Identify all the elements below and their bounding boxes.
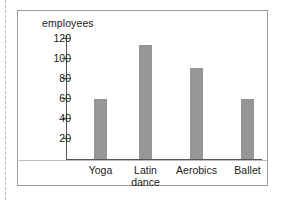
- y-axis-title: employees: [42, 17, 94, 29]
- bar-ballet[interactable]: [241, 99, 254, 160]
- page-margin-rule: [5, 0, 6, 200]
- y-tick-label: 40: [31, 112, 71, 124]
- y-tick-label: 20: [31, 132, 71, 144]
- figure-root: employees 120 100 80 60: [0, 0, 283, 200]
- y-tick-label: 60: [31, 92, 71, 104]
- x-category-label-latin-dance: Latindance: [131, 165, 160, 188]
- category-separator-line: [19, 160, 267, 161]
- bar-yoga[interactable]: [94, 99, 107, 160]
- y-tick-label: 80: [31, 72, 71, 84]
- y-tick-label: 100: [31, 52, 71, 64]
- x-category-label-line1: Latin: [134, 164, 157, 176]
- x-category-label-aerobics: Aerobics: [176, 165, 217, 177]
- plot-area: employees 120 100 80 60: [18, 11, 269, 187]
- y-tick-label: 120: [31, 32, 71, 44]
- x-category-label-line2: dance: [131, 176, 160, 188]
- bar-aerobics[interactable]: [190, 68, 203, 159]
- x-category-label-ballet: Ballet: [234, 165, 260, 177]
- bar-latin-dance[interactable]: [139, 45, 152, 159]
- x-category-label-yoga: Yoga: [89, 165, 113, 177]
- chart-panel: employees 120 100 80 60: [17, 10, 268, 186]
